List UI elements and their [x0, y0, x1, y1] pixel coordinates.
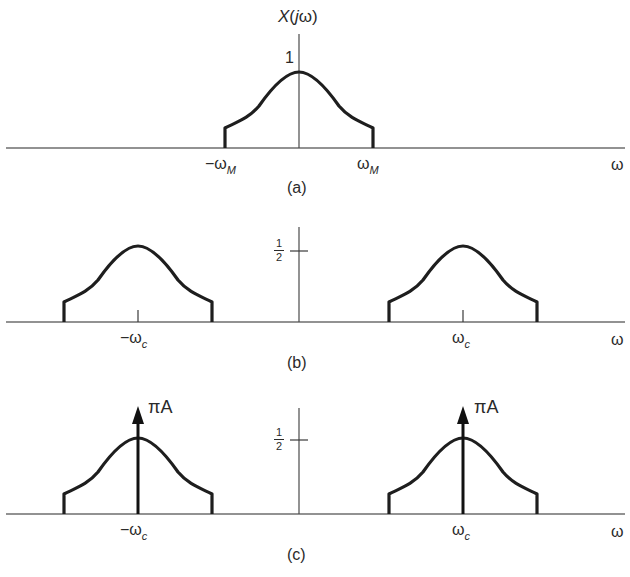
ylabel-omega: ω [299, 7, 312, 26]
omega-symbol: ω [214, 155, 227, 172]
panel-a-right-edge-label: ωM [357, 156, 379, 172]
panel-a [6, 34, 625, 148]
subscript: c [465, 530, 471, 542]
panel-a-caption: (a) [287, 180, 307, 196]
panel-c-xlabel: ω [611, 524, 624, 540]
panel-b-right-center-label: ωc [452, 330, 470, 346]
omega-symbol: ω [452, 521, 465, 538]
omega-symbol: ω [129, 329, 142, 346]
panel-c [6, 406, 625, 514]
subscript: M [227, 164, 236, 176]
modulation-spectrum-figure: X(jω) 1 −ωM ωM ω (a) 1 2 −ωc ωc ω (b) πA… [0, 0, 630, 577]
subscript: c [465, 338, 471, 350]
figure-graphics [0, 0, 630, 577]
fraction-numerator: 1 [276, 237, 282, 249]
panel-b-left-center-label: −ωc [120, 330, 147, 346]
fraction-denominator: 2 [276, 440, 282, 452]
panel-b-caption: (b) [287, 355, 307, 371]
minus-sign: − [120, 521, 129, 538]
subscript: M [370, 164, 379, 176]
omega-symbol: ω [129, 521, 142, 538]
ylabel-paren-close: ) [312, 7, 318, 26]
ylabel-x: X [278, 7, 289, 26]
panel-c-right-impulse-arrow-icon [457, 406, 469, 424]
panel-c-right-center-label: ωc [452, 522, 470, 538]
panel-c-right-impulse-label: πA [474, 398, 498, 416]
fraction-numerator: 1 [276, 426, 282, 438]
panel-a-xlabel: ω [611, 157, 624, 173]
subscript: c [142, 530, 148, 542]
panel-c-half-label: 1 2 [274, 427, 284, 452]
panel-b-half-label: 1 2 [274, 238, 284, 263]
panel-a-left-edge-label: −ωM [205, 156, 236, 172]
panel-c-left-impulse-label: πA [148, 398, 172, 416]
fraction-denominator: 2 [276, 251, 282, 263]
minus-sign: − [120, 329, 129, 346]
minus-sign: − [205, 155, 214, 172]
panel-a-ylabel: X(jω) [278, 8, 318, 25]
panel-b-xlabel: ω [611, 332, 624, 348]
panel-a-peak-label: 1 [285, 50, 294, 66]
omega-symbol: ω [452, 329, 465, 346]
omega-symbol: ω [357, 155, 370, 172]
panel-c-left-center-label: −ωc [120, 522, 147, 538]
panel-c-caption: (c) [287, 547, 306, 563]
panel-c-left-impulse-arrow-icon [132, 406, 144, 424]
panel-b [6, 227, 625, 322]
subscript: c [142, 338, 148, 350]
